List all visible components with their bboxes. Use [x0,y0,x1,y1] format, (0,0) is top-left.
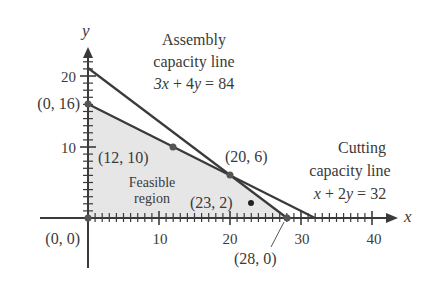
label-point-0-0: (0, 0) [45,230,80,248]
label-point-20-6: (20, 6) [225,148,268,166]
tick-label-x-10: 10 [153,231,168,247]
point-12-10 [170,144,177,151]
tick-label-x-40: 40 [367,231,382,247]
label-point-23-2: (23, 2) [190,194,233,212]
chart-canvas: 10 20 30 40 20 10 x y (0, 16) (0, 0) (12… [0,0,427,281]
x-axis-arrow-icon [386,213,398,223]
label-point-12-10: (12, 10) [98,149,149,167]
cutting-label-2: capacity line [309,162,390,180]
tick-label-x-20: 20 [223,231,238,247]
assembly-label-1: Assembly [162,31,226,49]
tick-label-y-10: 10 [61,140,76,156]
point-0-16 [85,101,92,108]
feasible-region-label-2: region [134,191,170,206]
point-0-0 [85,215,92,222]
cutting-label-1: Cutting [338,139,386,157]
y-axis-arrow-icon [83,47,93,58]
axis-label-x: x [403,207,412,226]
point-20-6 [227,172,234,179]
leader-line-28-0 [271,222,284,247]
label-point-28-0: (28, 0) [234,250,277,268]
assembly-equation: 3x + 4y = 84 [153,75,234,93]
feasible-region-label-1: Feasible [129,175,176,190]
axis-label-y: y [80,21,90,40]
assembly-label-2: capacity line [153,53,234,71]
point-28-0 [284,215,291,222]
tick-label-y-20: 20 [61,69,76,85]
tick-label-x-30: 30 [295,231,310,247]
cutting-equation: x + 2y = 32 [313,185,386,203]
point-23-2 [248,200,254,206]
label-point-0-16: (0, 16) [37,95,80,113]
